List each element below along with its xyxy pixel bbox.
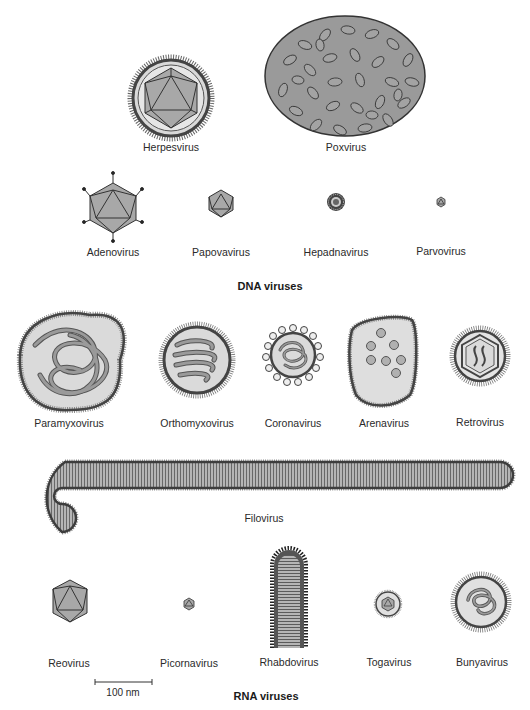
bunyavirus-illustration — [453, 574, 509, 630]
orthomyxovirus-illustration — [161, 324, 233, 396]
adenovirus-illustration — [83, 172, 144, 243]
retrovirus-illustration — [452, 328, 508, 384]
virus-label-papovavirus: Papovavirus — [192, 246, 250, 258]
virus-label-togavirus: Togavirus — [367, 656, 412, 668]
virus-label-picornavirus: Picornavirus — [160, 657, 218, 669]
section-title-dna: DNA viruses — [237, 280, 302, 292]
papovavirus-illustration — [209, 190, 233, 217]
section-title-rna: RNA viruses — [233, 690, 298, 702]
paramyxovirus-illustration — [20, 313, 124, 410]
virus-label-paramyxovirus: Paramyxovirus — [34, 417, 103, 429]
virus-label-hepadnavirus: Hepadnavirus — [304, 246, 369, 258]
virus-label-bunyavirus: Bunyavirus — [456, 656, 508, 668]
virus-label-parvovirus: Parvovirus — [416, 245, 466, 257]
coronavirus-illustration — [263, 325, 324, 386]
virus-label-filovirus: Filovirus — [244, 512, 283, 524]
virus-label-orthomyxovirus: Orthomyxovirus — [160, 417, 234, 429]
arenavirus-illustration — [349, 317, 416, 405]
virus-label-retrovirus: Retrovirus — [456, 416, 504, 428]
poxvirus-illustration — [265, 16, 425, 137]
hepadnavirus-illustration — [327, 193, 345, 211]
reovirus-illustration — [53, 580, 87, 622]
scale-bar — [95, 679, 152, 685]
parvovirus-illustration — [437, 197, 445, 207]
togavirus-illustration — [375, 591, 402, 618]
scale-bar-label: 100 nm — [106, 687, 139, 698]
virus-label-herpesvirus: Herpesvirus — [143, 141, 199, 153]
virus-label-poxvirus: Poxvirus — [326, 141, 366, 153]
picornavirus-illustration — [184, 598, 194, 610]
virus-label-rhabdovirus: Rhabdovirus — [260, 656, 319, 668]
virus-label-adenovirus: Adenovirus — [87, 246, 140, 258]
virus-label-arenavirus: Arenavirus — [359, 417, 409, 429]
rhabdovirus-illustration — [272, 548, 306, 648]
virus-label-coronavirus: Coronavirus — [265, 417, 322, 429]
virus-label-reovirus: Reovirus — [48, 657, 89, 669]
herpesvirus-illustration — [130, 57, 212, 139]
